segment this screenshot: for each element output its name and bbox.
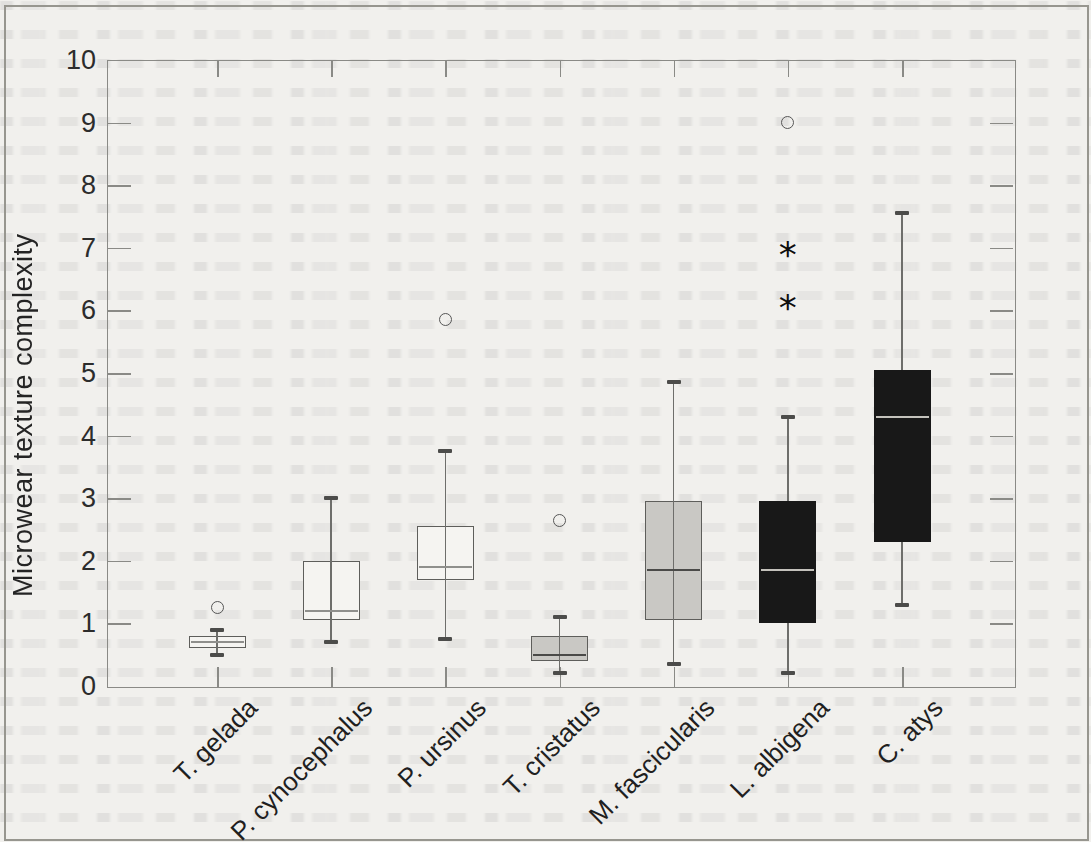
y-tick-label: 3	[32, 484, 96, 512]
outlier-circle	[211, 601, 224, 614]
median-line	[647, 569, 700, 571]
y-axis-tick-right	[990, 373, 1013, 375]
median-line	[305, 610, 358, 612]
y-tick-label: 5	[32, 359, 96, 387]
y-axis-tick-right	[990, 185, 1013, 187]
whisker-cap-low	[324, 640, 338, 644]
x-axis-tick-bottom	[445, 667, 447, 687]
y-axis-tick-left	[108, 436, 131, 438]
median-line	[533, 654, 586, 656]
y-axis-tick-left	[108, 498, 131, 500]
y-tick-label: 2	[32, 547, 96, 575]
y-tick-label: 0	[32, 672, 96, 700]
x-axis-tick-bottom	[331, 667, 333, 687]
y-axis-tick-right	[990, 310, 1013, 312]
x-category-label: T. gelada	[169, 694, 262, 787]
x-axis-tick-top	[788, 61, 790, 77]
x-axis-tick-bottom	[674, 667, 676, 687]
whisker-cap-low	[667, 662, 681, 666]
y-axis-tick-right	[990, 123, 1013, 125]
y-axis-tick-left	[108, 623, 131, 625]
outlier-circle	[553, 514, 566, 527]
y-tick-label: 10	[32, 46, 96, 74]
y-axis-tick-left	[108, 185, 131, 187]
outlier-asterisk: *	[779, 290, 797, 326]
y-axis-tick-right	[990, 623, 1013, 625]
y-tick-label: 6	[32, 296, 96, 324]
y-tick-label: 9	[32, 109, 96, 137]
whisker-cap-high	[553, 615, 567, 619]
whisker-line	[330, 498, 332, 642]
whisker-cap-high	[324, 496, 338, 500]
y-axis-tick-left	[108, 561, 131, 563]
whisker-line	[673, 382, 675, 664]
median-line	[876, 416, 929, 418]
whisker-cap-low	[895, 603, 909, 607]
y-axis-tick-left	[108, 123, 131, 125]
y-axis-tick-right	[990, 436, 1013, 438]
x-axis-tick-bottom	[902, 667, 904, 687]
whisker-cap-high	[210, 628, 224, 632]
x-axis-tick-top	[560, 61, 562, 77]
x-category-label: T. cristatus	[499, 694, 605, 800]
median-line	[191, 641, 244, 643]
whisker-cap-low	[781, 671, 795, 675]
x-axis-tick-top	[902, 61, 904, 77]
scanned-figure-page: Microwear texture complexity 01234567891…	[0, 0, 1091, 842]
whisker-line	[445, 451, 447, 639]
x-category-label: C. atys	[872, 694, 948, 770]
y-tick-label: 8	[32, 171, 96, 199]
x-category-label: P. ursinus	[393, 694, 491, 792]
whisker-line	[559, 617, 561, 673]
whisker-cap-low	[210, 653, 224, 657]
x-category-label: L. albigena	[725, 694, 833, 802]
whisker-cap-high	[438, 449, 452, 453]
median-line	[761, 569, 814, 571]
y-axis-tick-right	[990, 248, 1013, 250]
whisker-cap-high	[781, 415, 795, 419]
whisker-cap-low	[553, 671, 567, 675]
x-axis-tick-top	[674, 61, 676, 77]
boxplot-box	[874, 370, 931, 542]
x-axis-tick-top	[331, 61, 333, 77]
y-tick-label: 1	[32, 609, 96, 637]
y-tick-label: 4	[32, 422, 96, 450]
y-axis-tick-left	[108, 373, 131, 375]
y-axis-tick-left	[108, 248, 131, 250]
x-axis-tick-top	[217, 61, 219, 77]
whisker-cap-high	[895, 211, 909, 215]
y-tick-label: 7	[32, 234, 96, 262]
x-axis-tick-top	[445, 61, 447, 77]
outlier-asterisk: *	[779, 237, 797, 273]
whisker-cap-high	[667, 380, 681, 384]
whisker-cap-low	[438, 637, 452, 641]
x-axis-tick-bottom	[217, 667, 219, 687]
median-line	[419, 566, 472, 568]
boxplot-box	[759, 501, 816, 623]
y-axis-tick-right	[990, 498, 1013, 500]
y-axis-tick-right	[990, 561, 1013, 563]
y-axis-tick-left	[108, 310, 131, 312]
